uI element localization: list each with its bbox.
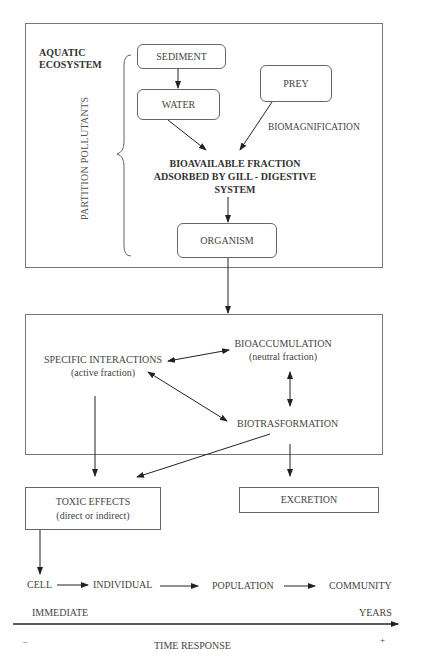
bioaccumulation-label: BIOACCUMULATION (neutral fraction) xyxy=(228,337,338,363)
bioavailable-line-1: BIOAVAILABLE FRACTION xyxy=(140,157,330,170)
organism-label: ORGANISM xyxy=(200,235,253,246)
excretion-label: EXCRETION xyxy=(281,493,338,507)
sediment-node: SEDIMENT xyxy=(137,44,226,69)
sediment-label: SEDIMENT xyxy=(156,51,207,62)
excretion-box: EXCRETION xyxy=(239,487,379,513)
organism-processes-panel xyxy=(25,314,383,455)
bioaccumulation-title: BIOACCUMULATION xyxy=(228,337,338,350)
organism-node: ORGANISM xyxy=(177,223,277,258)
toxic-effects-label: TOXIC EFFECTS xyxy=(56,495,131,509)
water-node: WATER xyxy=(137,89,220,120)
bioavailable-line-2: ADSORBED BY GILL - DIGESTIVE xyxy=(140,170,330,183)
level-cell: CELL xyxy=(27,579,52,590)
specific-interactions-title: SPECIFIC INTERACTIONS xyxy=(38,353,168,366)
bioavailable-line-3: SYSTEM xyxy=(140,183,330,196)
time-end-label: YEARS xyxy=(359,607,392,618)
bioaccumulation-sub: (neutral fraction) xyxy=(228,350,338,363)
biotransformation-label: BIOTRASFORMATION xyxy=(237,418,338,429)
aquatic-ecosystem-title: AQUATIC ECOSYSTEM xyxy=(39,47,102,71)
time-response-title: TIME RESPONSE xyxy=(154,640,231,651)
level-population: POPULATION xyxy=(212,580,274,591)
toxic-effects-sub: (direct or indirect) xyxy=(56,509,129,523)
title-line-2: ECOSYSTEM xyxy=(39,59,102,71)
specific-interactions-label: SPECIFIC INTERACTIONS (active fraction) xyxy=(38,353,168,379)
title-line-1: AQUATIC xyxy=(39,47,102,59)
prey-label: PREY xyxy=(283,78,309,89)
biomagnification-label: BIOMAGNIFICATION xyxy=(268,122,360,132)
time-minus-sign: – xyxy=(23,636,28,646)
partition-pollutants-label: PARTITION POLLUTANTS xyxy=(79,97,90,220)
toxic-effects-box: TOXIC EFFECTS (direct or indirect) xyxy=(25,487,161,530)
level-community: COMMUNITY xyxy=(329,580,392,591)
specific-interactions-sub: (active fraction) xyxy=(38,366,168,379)
time-plus-sign: + xyxy=(380,635,385,645)
time-start-label: IMMEDIATE xyxy=(32,607,88,618)
water-label: WATER xyxy=(162,99,195,110)
level-individual: INDIVIDUAL xyxy=(93,579,152,590)
prey-node: PREY xyxy=(260,65,332,102)
bioavailable-fraction-label: BIOAVAILABLE FRACTION ADSORBED BY GILL -… xyxy=(140,157,330,196)
